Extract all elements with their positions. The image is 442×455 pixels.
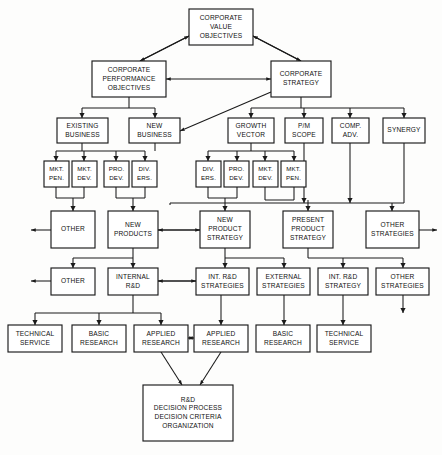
connector-right-small-bus — [208, 143, 294, 161]
connector-nps-down-bus — [225, 248, 284, 268]
node-label-line: INT. R&D — [329, 273, 358, 280]
node-label-line: OTHER — [61, 277, 85, 284]
node-div-ers-left[interactable]: DIV.ERS. — [132, 161, 157, 187]
connector-arrowhead — [301, 198, 306, 203]
node-label-line: SYNERGY — [387, 126, 421, 133]
connector-arrowhead — [96, 320, 101, 325]
connector-np-down-bus — [73, 248, 133, 268]
connector-arrowhead — [400, 263, 405, 268]
node-other-row6[interactable]: OTHER — [51, 268, 95, 295]
node-label-line: DEV. — [77, 174, 92, 181]
node-prod-dev-left[interactable]: PRO.DEV. — [104, 161, 129, 187]
connector-arrowhead — [389, 206, 394, 211]
connector-arrowhead — [400, 308, 405, 313]
node-mkt-dev-right[interactable]: MKT.DEV. — [253, 161, 278, 187]
node-pm-scope[interactable]: P/MSCOPE — [285, 118, 323, 143]
node-label-line: PEN. — [286, 174, 301, 181]
connector-arrowhead — [70, 206, 75, 211]
node-synergy[interactable]: SYNERGY — [383, 118, 425, 143]
connector-arrowhead — [347, 113, 352, 118]
node-label-line: NEW — [147, 122, 163, 129]
node-applied-research-right[interactable]: APPLIEDRESEARCH — [194, 325, 248, 352]
node-technical-service-right[interactable]: TECHNICALSERVICE — [317, 325, 371, 352]
node-comp-adv[interactable]: COMP.ADV. — [332, 118, 369, 143]
node-mkt-pen-left[interactable]: MKT.PEN. — [44, 161, 69, 187]
node-label-line: EXISTING — [67, 122, 99, 129]
connector-merge-newproducts — [116, 187, 145, 211]
connector-arrowhead — [291, 156, 296, 161]
node-new-products[interactable]: NEWPRODUCTS — [108, 211, 158, 248]
node-label-line: R&D — [181, 396, 195, 403]
node-mkt-dev-left[interactable]: MKT.DEV. — [72, 161, 97, 187]
node-corporate-value-objectives[interactable]: CORPORATEVALUEOBJECTIVES — [189, 9, 253, 45]
node-label-line: ADV. — [343, 131, 358, 138]
node-int-rd-strategy[interactable]: INT. R&DSTRATEGY — [318, 268, 368, 295]
node-label-line: OBJECTIVES — [108, 84, 151, 91]
node-label-line: STRATEGIES — [371, 230, 414, 237]
connector-arrowhead — [53, 156, 58, 161]
node-other-strategies-row6[interactable]: OTHERSTRATEGIES — [376, 268, 429, 295]
node-basic-research-left[interactable]: BASICRESEARCH — [72, 325, 126, 352]
node-label-line: DIV. — [138, 165, 150, 172]
node-label-line: MKT. — [49, 165, 64, 172]
node-label-line: MKT. — [258, 165, 273, 172]
connector-arrowhead — [205, 156, 210, 161]
node-prod-dev-right[interactable]: PRO.DEV. — [224, 161, 249, 187]
node-growth-vector[interactable]: GROWTHVECTOR — [228, 118, 274, 143]
node-new-business[interactable]: NEWBUSINESS — [129, 118, 180, 143]
node-existing-business[interactable]: EXISTINGBUSINESS — [57, 118, 108, 143]
node-label-line: CORPORATE — [200, 14, 243, 21]
node-label-line: INTERNAL — [116, 273, 150, 280]
connector-applied-right-to-rd — [200, 352, 221, 385]
node-label-line: NEW — [217, 216, 233, 223]
connector-arrowhead — [130, 206, 135, 211]
node-label-line: SCOPE — [292, 131, 316, 138]
connector-arrowhead — [152, 113, 157, 118]
node-external-strategies[interactable]: EXTERNALSTRATEGIES — [257, 268, 310, 295]
node-label-line: OBJECTIVES — [200, 32, 243, 39]
node-applied-research-left[interactable]: APPLIEDRESEARCH — [134, 325, 188, 352]
connector-left-small-bus — [56, 143, 145, 161]
node-label-line: ERS. — [137, 174, 152, 181]
node-mkt-pen-right[interactable]: MKT.PEN. — [281, 161, 306, 187]
connector-arrowhead — [81, 156, 86, 161]
node-label-line: BASIC — [273, 330, 294, 337]
node-label-line: VALUE — [210, 23, 232, 30]
node-label-line: DEV. — [109, 174, 124, 181]
node-label-line: INT. R&D — [208, 273, 237, 280]
node-label-line: SERVICE — [329, 339, 359, 346]
node-int-rd-strategies[interactable]: INT. R&DSTRATEGIES — [196, 268, 249, 295]
node-label-line: MKT. — [286, 165, 301, 172]
node-label-line: VECTOR — [237, 131, 265, 138]
node-rd-decision[interactable]: R&DDECISION PROCESSDECISION CRITERIAORGA… — [143, 385, 233, 441]
node-div-ers-right[interactable]: DIV.ERS. — [196, 161, 221, 187]
node-other-strategies-row5[interactable]: OTHERSTRATEGIES — [366, 211, 419, 248]
node-label-line: STRATEGY — [325, 282, 362, 289]
node-label-line: CORPORATE — [108, 66, 151, 73]
node-corporate-performance-objectives[interactable]: CORPORATEPERFORMANCEOBJECTIVES — [92, 61, 166, 97]
node-layer: CORPORATEVALUEOBJECTIVESCORPORATEPERFORM… — [8, 9, 429, 441]
node-other-row5[interactable]: OTHER — [51, 211, 95, 248]
node-basic-research-right[interactable]: BASICRESEARCH — [256, 325, 310, 352]
node-label-line: PRODUCTS — [114, 230, 153, 237]
connector-applied-left-to-rd — [161, 352, 182, 385]
node-new-product-strategy[interactable]: NEWPRODUCTSTRATEGY — [200, 211, 250, 248]
node-corporate-strategy[interactable]: CORPORATESTRATEGY — [271, 61, 331, 97]
node-technical-service-left[interactable]: TECHNICALSERVICE — [8, 325, 62, 352]
connector-arrowhead — [113, 156, 118, 161]
node-label-line: STRATEGY — [207, 234, 244, 241]
connector-arrowhead — [142, 156, 147, 161]
node-label-line: RESEARCH — [264, 339, 302, 346]
connector-arrowhead — [281, 263, 286, 268]
node-label-line: RESEARCH — [80, 339, 118, 346]
node-label-line: DIV. — [202, 165, 214, 172]
node-label-line: STRATEGY — [290, 234, 327, 241]
connector-merge-nps — [208, 187, 237, 211]
node-label-line: OTHER — [381, 221, 405, 228]
node-label-line: PEN. — [49, 174, 64, 181]
node-label-line: OTHER — [391, 273, 415, 280]
node-internal-rd[interactable]: INTERNALR&D — [108, 268, 158, 295]
connector-arrowhead — [305, 206, 310, 211]
node-present-product-strategy[interactable]: PRESENTPRODUCTSTRATEGY — [283, 211, 333, 248]
node-label-line: OTHER — [61, 225, 85, 232]
